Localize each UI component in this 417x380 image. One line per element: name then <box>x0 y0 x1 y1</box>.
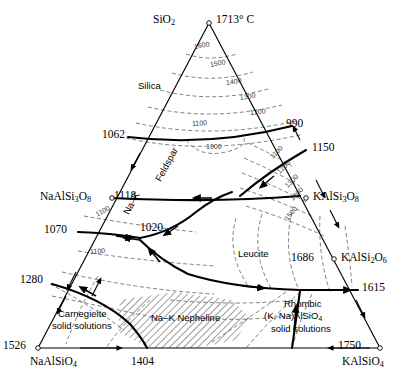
corner-temp-sio2: 1713° C <box>216 14 254 26</box>
invariant-temp-1150: 1150 <box>312 142 335 154</box>
corner-label-naalsio4: NaAlSiO4 <box>30 356 77 370</box>
invariant-temp-1404: 1404 <box>131 356 154 368</box>
boundary-nepheline-leucite <box>140 240 300 290</box>
field-label-rhombic: Rhombic <box>284 299 322 309</box>
invariant-temp-1280: 1280 <box>20 274 43 286</box>
invariant-temp-1062: 1062 <box>102 129 125 141</box>
invariant-temp-990: 990 <box>286 118 303 130</box>
field-label-na-k-nepheline: Na–K Nepheline <box>151 313 220 323</box>
isotherm-label-1000: 1000 <box>206 143 222 150</box>
marker-leucite-compound <box>332 257 337 262</box>
edge-label-orthoclase: KAlSi3O8 <box>313 191 359 205</box>
field-label-carnegieite-ss: solid solutions <box>52 321 112 331</box>
invariant-temp-1020: 1020 <box>140 222 163 234</box>
boundary-1070-1020 <box>78 232 140 238</box>
field-label-rhombic-ss: solid solutions <box>271 324 331 334</box>
marker-naalsio4 <box>36 346 41 351</box>
corner-label-kalsio4: KAlSiO4 <box>342 356 384 370</box>
edge-temp-leucite-compound: 1686 <box>291 252 314 264</box>
isotherm-label-1100-left-lower: 1100 <box>90 247 106 255</box>
edge-label-leucite-compound: KAlSi2O6 <box>341 252 387 266</box>
invariant-temp-1070: 1070 <box>44 224 67 236</box>
corner-temp-naalsio4: 1526 <box>3 340 26 352</box>
isotherm-label-1100-silica: 1100 <box>192 119 208 127</box>
marker-sio2 <box>207 21 212 26</box>
marker-orthoclase <box>304 196 309 201</box>
marker-kalsio4 <box>378 346 383 351</box>
field-label-carnegieite: Carnegieite <box>58 309 107 319</box>
field-label-rhombic-formula: (K, Na)AlSiO4 <box>264 311 322 323</box>
corner-label-sio2: SiO2 <box>153 14 175 28</box>
field-label-leucite: Leucite <box>238 249 269 259</box>
corner-temp-kalsio4: 1750 <box>338 340 361 352</box>
field-label-silica: Silica <box>138 81 161 91</box>
invariant-temp-1615: 1615 <box>362 282 385 294</box>
edge-label-albite: NaAlSi3O8 <box>40 191 91 205</box>
